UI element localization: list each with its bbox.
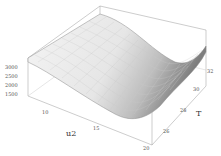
surface: [28, 14, 206, 119]
y-tick: 28: [180, 107, 186, 113]
y-tick: 32: [207, 68, 213, 74]
y-axis-label: T: [196, 109, 202, 118]
z-tick: 2000: [5, 82, 18, 88]
y-tick: 30: [193, 86, 199, 92]
z-tick: 3000: [5, 64, 18, 70]
z-tick: 2500: [5, 73, 18, 79]
z-axis: 3000 2500 2000 1500: [5, 64, 18, 97]
x-axis-label: u2: [66, 129, 76, 138]
z-tick: 1500: [5, 91, 18, 97]
surface-plot: 3000 2500 2000 1500 10 15 20 u2 26 28 30…: [0, 0, 221, 156]
y-tick: 26: [163, 128, 169, 134]
x-tick: 20: [143, 145, 149, 151]
x-tick: 15: [93, 125, 99, 131]
x-tick: 10: [42, 109, 48, 115]
